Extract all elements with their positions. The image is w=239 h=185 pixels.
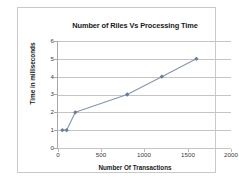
data-point-marker [194, 57, 198, 61]
x-tick-label-500: 500 [87, 152, 115, 158]
y-tick-mark [54, 130, 57, 131]
x-tick-label-1500: 1500 [174, 152, 202, 158]
x-axis-title: Number Of Transactions [38, 164, 232, 171]
plot-area [58, 41, 231, 148]
y-tick-mark [54, 112, 57, 113]
data-point-marker [160, 74, 164, 78]
y-axis-title: Time in milliseconds [29, 36, 36, 112]
y-tick-label-3: 3 [40, 91, 54, 97]
y-tick-label-1: 1 [40, 127, 54, 133]
data-point-marker [60, 128, 64, 132]
data-point-marker [64, 128, 68, 132]
data-series-line [58, 41, 231, 148]
y-tick-label-5: 5 [40, 56, 54, 62]
data-point-marker [73, 110, 77, 114]
y-tick-label-6: 6 [40, 38, 54, 44]
data-point-marker [125, 92, 129, 96]
y-tick-label-4: 4 [40, 74, 54, 80]
y-tick-label-2: 2 [40, 109, 54, 115]
y-tick-mark [54, 41, 57, 42]
x-tick-label-1000: 1000 [130, 152, 158, 158]
chart-frame: Number of Riles Vs Processing Time 6 5 4… [17, 7, 216, 173]
x-tick-label-0: 0 [44, 152, 72, 158]
y-tick-mark [54, 59, 57, 60]
x-tick-label-2000: 2000 [217, 152, 233, 158]
y-tick-mark [54, 77, 57, 78]
gridline [58, 148, 231, 149]
chart-title: Number of Riles Vs Processing Time [38, 21, 232, 30]
y-tick-mark [54, 94, 57, 95]
y-tick-mark [54, 148, 57, 149]
y-tick-label-0: 0 [40, 145, 54, 151]
